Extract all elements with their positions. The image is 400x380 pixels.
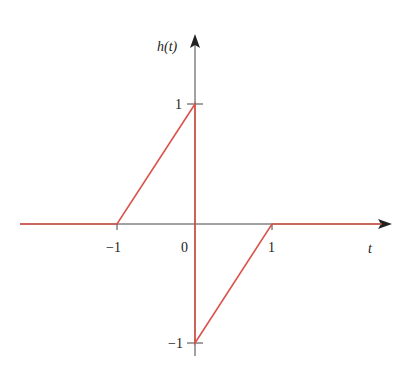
y-axis-label: h(t) bbox=[157, 39, 178, 55]
x-tick-label-0: 0 bbox=[181, 240, 188, 255]
y-tick-label-1: 1 bbox=[175, 97, 182, 112]
x-tick-label-neg1: −1 bbox=[106, 240, 121, 255]
y-tick-label-neg1: −1 bbox=[168, 336, 183, 351]
x-tick-label-1: 1 bbox=[268, 240, 275, 255]
chart-canvas: h(t) t −1 0 1 1 −1 bbox=[0, 0, 400, 380]
x-axis-label: t bbox=[368, 241, 373, 256]
